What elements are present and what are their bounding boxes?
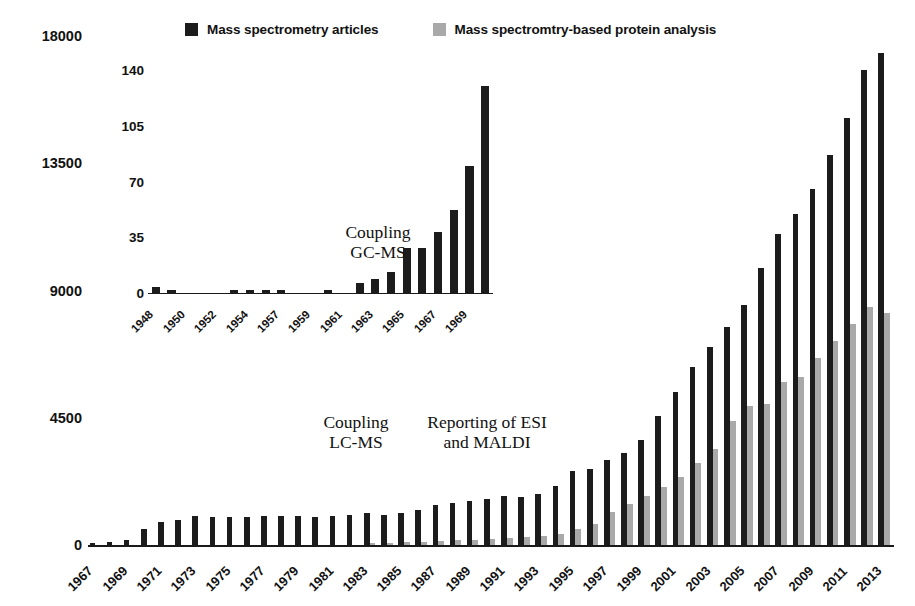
main-bar-ms-articles — [124, 540, 130, 545]
main-bar-group — [757, 36, 774, 545]
main-y-tick-label: 18000 — [42, 28, 82, 44]
main-bar-group — [654, 36, 671, 545]
main-x-tick-label: 1995 — [545, 563, 576, 594]
main-bar-ms-articles — [90, 543, 96, 545]
main-bar-group — [774, 36, 791, 545]
inset-y-tick-label: 140 — [121, 63, 144, 78]
main-y-tick-label: 0 — [74, 537, 82, 553]
main-bar-ms-articles — [295, 516, 301, 545]
main-bar-protein-analysis — [591, 524, 598, 545]
main-bar-ms-articles — [381, 515, 387, 545]
inset-bar-ms-articles — [371, 279, 379, 293]
main-bar-ms-articles — [553, 486, 559, 545]
main-bar-group — [705, 36, 722, 545]
main-bar-ms-articles — [535, 494, 541, 545]
inset-y-tick-label: 35 — [129, 230, 144, 245]
main-bar-group — [688, 36, 705, 545]
main-bar-group — [585, 36, 602, 545]
main-bar-ms-articles — [827, 155, 833, 545]
main-bar-ms-articles — [107, 542, 113, 545]
inset-x-tick-label: 1959 — [286, 308, 313, 335]
inset-y-axis: 03570105140 — [98, 0, 144, 400]
main-x-axis-labels: 1967196919711973197519771979198119831985… — [88, 547, 894, 605]
main-bar-ms-articles — [810, 189, 816, 545]
main-bar-ms-articles — [415, 510, 421, 545]
main-bar-ms-articles — [673, 392, 679, 545]
main-bar-group — [808, 36, 825, 545]
annotation-coupling-lc-ms: Coupling LC-MS — [296, 412, 416, 452]
main-bar-protein-analysis — [557, 534, 564, 545]
main-bar-protein-analysis — [849, 324, 856, 545]
main-x-tick-label: 1979 — [271, 563, 302, 594]
main-bar-protein-analysis — [386, 543, 393, 545]
inset-y-tick-label: 70 — [129, 174, 144, 189]
main-x-tick-label: 2003 — [682, 563, 713, 594]
main-x-tick-label: 2009 — [785, 563, 816, 594]
main-bar-group — [825, 36, 842, 545]
main-bar-protein-analysis — [471, 540, 478, 545]
main-bar-ms-articles — [398, 513, 404, 545]
main-bar-protein-analysis — [506, 538, 513, 545]
main-bar-ms-articles — [878, 53, 884, 545]
main-x-tick-label: 2013 — [854, 563, 885, 594]
main-bar-ms-articles — [450, 503, 456, 545]
inset-bar-ms-articles — [262, 290, 270, 293]
inset-y-tick-label: 0 — [136, 286, 144, 301]
main-bar-ms-articles — [433, 505, 439, 545]
main-bar-ms-articles — [158, 522, 164, 545]
inset-bar-ms-articles — [230, 290, 238, 293]
main-bar-protein-analysis — [643, 496, 650, 545]
main-bar-group — [877, 36, 894, 545]
main-bar-ms-articles — [364, 513, 370, 545]
main-y-tick-label: 4500 — [50, 410, 82, 426]
inset-x-tick-label: 1957 — [255, 308, 282, 335]
main-x-tick-label: 1973 — [168, 563, 199, 594]
main-bar-ms-articles — [518, 497, 524, 545]
main-bar-ms-articles — [467, 501, 473, 545]
main-bar-group — [791, 36, 808, 545]
main-bar-ms-articles — [227, 517, 233, 545]
inset-x-tick-label: 1967 — [411, 308, 438, 335]
main-x-tick-label: 1981 — [305, 563, 336, 594]
main-y-axis: 0450090001350018000 — [0, 0, 82, 606]
main-y-tick-label: 9000 — [50, 283, 82, 299]
main-x-tick-label: 2005 — [717, 563, 748, 594]
main-bar-protein-analysis — [609, 512, 616, 545]
main-bar-ms-articles — [278, 516, 284, 545]
main-bar-ms-articles — [638, 440, 644, 545]
main-bar-ms-articles — [861, 70, 867, 545]
main-bar-ms-articles — [604, 460, 610, 545]
main-bar-ms-articles — [261, 516, 267, 545]
main-x-tick-label: 1993 — [511, 563, 542, 594]
main-x-tick-label: 1977 — [236, 563, 267, 594]
main-bar-ms-articles — [141, 529, 147, 545]
main-bar-group — [843, 36, 860, 545]
inset-bar-ms-articles — [167, 290, 175, 293]
main-bar-ms-articles — [192, 516, 198, 545]
main-bar-protein-analysis — [523, 537, 530, 545]
annotation-esi-maldi: Reporting of ESI and MALDI — [412, 412, 562, 452]
main-bar-group — [534, 36, 551, 545]
main-bar-protein-analysis — [866, 307, 873, 545]
main-bar-ms-articles — [347, 515, 353, 545]
main-x-tick-label: 1985 — [374, 563, 405, 594]
main-y-tick-label: 13500 — [42, 155, 82, 171]
inset-bar-ms-articles — [450, 210, 458, 293]
inset-x-tick-label: 1961 — [317, 308, 344, 335]
inset-x-tick-label: 1950 — [160, 308, 187, 335]
main-bar-protein-analysis — [540, 536, 547, 545]
main-bar-ms-articles — [621, 453, 627, 545]
mass-spectrometry-publications-figure: Mass spectrometry articles Mass spectrom… — [0, 0, 915, 606]
inset-bar-ms-articles — [324, 290, 332, 293]
main-bar-group — [500, 36, 517, 545]
inset-x-tick-label: 1952 — [192, 308, 219, 335]
main-x-tick-label: 1999 — [614, 563, 645, 594]
main-bar-ms-articles — [175, 520, 181, 545]
legend-label-protein-analysis: Mass spectromtry-based protein analysis — [455, 22, 717, 37]
main-bar-ms-articles — [741, 305, 747, 545]
main-bar-group — [671, 36, 688, 545]
main-bar-group — [551, 36, 568, 545]
main-x-tick-label: 1969 — [99, 563, 130, 594]
main-x-tick-label: 1991 — [476, 563, 507, 594]
main-bar-protein-analysis — [814, 358, 821, 545]
